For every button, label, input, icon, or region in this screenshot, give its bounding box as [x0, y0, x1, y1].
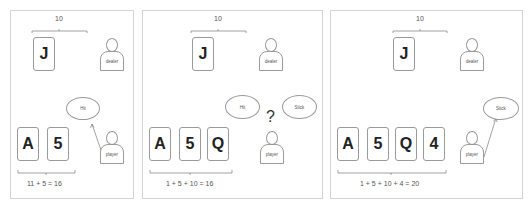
- player-card: Q: [207, 127, 229, 161]
- head-icon: [106, 38, 118, 52]
- player-label: player: [100, 144, 124, 164]
- hit-bubble: Hit: [66, 97, 100, 120]
- dealer-total: 10: [416, 15, 424, 22]
- dealer-figure: dealer: [460, 38, 484, 72]
- head-icon: [266, 131, 278, 145]
- dealer-figure: dealer: [259, 38, 283, 72]
- head-icon: [106, 131, 118, 145]
- sum-equation: 1 + 5 + 10 = 16: [166, 180, 213, 187]
- player-label: player: [260, 144, 284, 164]
- sum-equation: 1 + 5 + 10 + 4 = 20: [360, 180, 419, 187]
- sum-equation: 11 + 5 = 16: [27, 180, 62, 187]
- player-figure: player: [100, 131, 124, 165]
- dealer-total: 10: [214, 15, 222, 22]
- dealer-label: dealer: [460, 51, 484, 71]
- head-icon: [265, 38, 277, 52]
- head-icon: [466, 38, 478, 52]
- stick-bubble: Stick: [282, 95, 317, 119]
- dealer-figure: dealer: [100, 38, 124, 72]
- dealer-label: dealer: [259, 51, 283, 71]
- dealer-card: J: [33, 37, 55, 71]
- player-figure: player: [460, 131, 484, 165]
- player-label: player: [460, 144, 484, 164]
- question-mark: ?: [266, 108, 275, 126]
- dealer-card: J: [192, 37, 214, 71]
- player-card: A: [17, 127, 39, 161]
- dealer-label: dealer: [100, 51, 124, 71]
- stick-bubble: Stick: [483, 97, 519, 120]
- player-figure: player: [260, 131, 284, 165]
- player-card: A: [149, 127, 171, 161]
- player-card: Q: [395, 127, 417, 161]
- player-card: 4: [423, 127, 445, 161]
- head-icon: [466, 131, 478, 145]
- hit-bubble: Hit: [225, 95, 260, 119]
- player-card: 5: [179, 127, 201, 161]
- dealer-total: 10: [55, 15, 63, 22]
- player-card: A: [337, 127, 359, 161]
- player-card: 5: [367, 127, 389, 161]
- player-card: 5: [47, 127, 69, 161]
- dealer-card: J: [393, 37, 415, 71]
